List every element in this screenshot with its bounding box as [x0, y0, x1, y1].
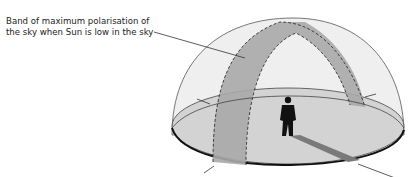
sky-dome-diagram: [0, 0, 411, 177]
tick-mark: [358, 164, 395, 177]
tick-mark: [204, 166, 214, 173]
